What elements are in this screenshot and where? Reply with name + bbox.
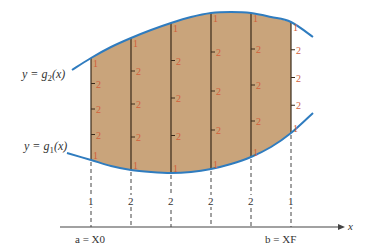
weight-label: 2 <box>96 130 101 141</box>
bottom-weight-labels: 122221 <box>87 195 295 207</box>
weight-label: 2 <box>256 80 261 91</box>
weight-label: 1 <box>253 147 258 158</box>
weight-label: 1 <box>93 150 98 161</box>
weight-label: 1 <box>133 160 138 171</box>
weight-label: 2 <box>296 45 301 56</box>
weight-label: 2 <box>136 66 141 77</box>
weight-label: 2 <box>96 104 101 115</box>
weight-label: 2 <box>296 100 301 111</box>
integration-region <box>91 12 291 173</box>
weight-label: 2 <box>176 131 181 142</box>
weight-label: 1 <box>293 123 298 134</box>
weight-label: 1 <box>93 58 98 69</box>
x-axis-arrow-icon <box>338 224 345 230</box>
weight-label: 1 <box>173 163 178 174</box>
weight-label: 1 <box>213 159 218 170</box>
weight-label: 2 <box>296 73 301 84</box>
bottom-weight-label: 2 <box>168 195 174 207</box>
weight-label: 2 <box>176 93 181 104</box>
bottom-weight-label: 2 <box>208 195 214 207</box>
weight-label: 2 <box>216 47 221 58</box>
bottom-weight-label: 2 <box>128 195 134 207</box>
weight-label: 2 <box>216 86 221 97</box>
weight-label: 2 <box>136 99 141 110</box>
right-bound-label: b = XF <box>265 233 296 245</box>
left-bound-label: a = X0 <box>75 233 106 245</box>
bottom-weight-label: 2 <box>248 195 254 207</box>
weight-label: 2 <box>216 125 221 136</box>
weight-label: 1 <box>253 13 258 24</box>
weight-label: 1 <box>213 13 218 24</box>
weight-label: 2 <box>136 132 141 143</box>
weight-label: 1 <box>293 22 298 33</box>
weight-label: 2 <box>256 44 261 55</box>
x-axis-label: x <box>347 220 353 232</box>
double-integral-weights-diagram: 122211222112221122211222112221 122221 x … <box>0 0 365 251</box>
weight-label: 2 <box>96 79 101 90</box>
bottom-weight-label: 1 <box>288 195 294 207</box>
weight-label: 1 <box>133 38 138 49</box>
lower-curve-label: y = g1(x) <box>23 139 67 155</box>
weight-label: 1 <box>173 23 178 34</box>
bottom-weight-label: 1 <box>88 195 94 207</box>
upper-curve-label: y = g2(x) <box>21 67 65 83</box>
weight-label: 2 <box>256 116 261 127</box>
weight-label: 2 <box>176 56 181 67</box>
